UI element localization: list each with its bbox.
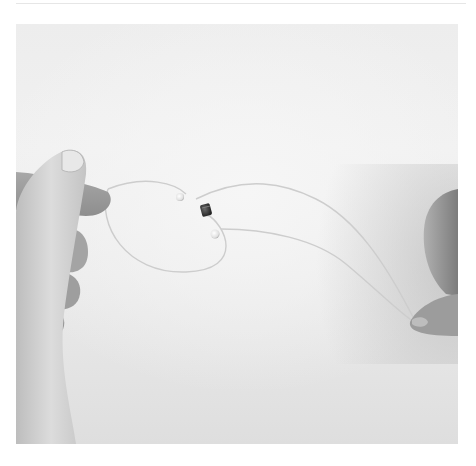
photo-illustration xyxy=(16,24,458,444)
left-hand xyxy=(16,150,111,444)
crimp-bead xyxy=(200,203,213,217)
top-divider xyxy=(16,3,466,4)
photo xyxy=(16,24,458,444)
clear-bead-1 xyxy=(176,193,184,201)
clear-bead-2 xyxy=(211,230,220,239)
beads xyxy=(176,193,220,239)
